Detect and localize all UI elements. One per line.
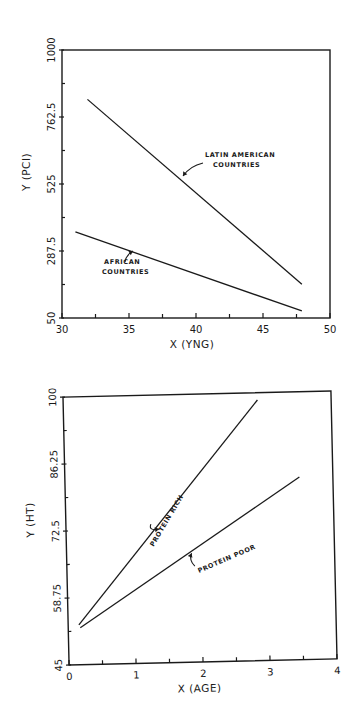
y-tick-label: 1000 — [46, 37, 57, 62]
series-annotation: COUNTRIES — [213, 161, 260, 169]
x-tick-label: 50 — [324, 324, 337, 335]
y-tick-label: 50 — [46, 312, 57, 325]
x-tick-label: 40 — [190, 324, 203, 335]
y-axis-label: Y (PCI) — [20, 153, 32, 192]
chart-height-vs-age: 012344558.7572.586.25100X (AGE)Y (HT)PRO… — [21, 381, 341, 698]
x-tick-label: 30 — [56, 324, 69, 335]
x-tick-label: 1 — [133, 669, 140, 680]
series-annotation: PROTEIN POOR — [197, 543, 257, 575]
x-tick-label: 35 — [123, 324, 136, 335]
plot-frame — [63, 391, 337, 665]
series-annotation: COUNTRIES — [102, 268, 149, 276]
x-tick-label: 4 — [334, 665, 341, 676]
y-tick-label: 287.5 — [46, 237, 57, 266]
series-annotation: LATIN AMERICAN — [205, 151, 275, 159]
x-tick-label: 0 — [66, 671, 73, 682]
y-tick-label: 86.25 — [48, 450, 60, 479]
x-tick-label: 45 — [257, 324, 270, 335]
y-tick-label: 100 — [47, 388, 58, 407]
y-tick-label: 762.5 — [46, 103, 57, 132]
x-axis-label: X (YNG) — [170, 338, 215, 350]
chart-pci-vs-yng: 303540455050287.5525762.51000X (YNG)Y (P… — [20, 37, 336, 350]
y-tick-label: 45 — [53, 659, 64, 672]
series-line-protein-poor — [77, 477, 303, 628]
series-line-latin-american-countries — [87, 99, 301, 284]
x-tick-label: 2 — [200, 668, 207, 679]
x-axis-label: X (AGE) — [178, 682, 222, 695]
y-tick-label: 72.5 — [50, 520, 62, 543]
plot-frame — [62, 50, 330, 318]
series-annotation: PROTEIN RICH — [148, 493, 185, 548]
y-tick-label: 525 — [46, 174, 57, 193]
x-tick-label: 3 — [267, 666, 274, 677]
series-annotation: AFRICAN — [104, 258, 140, 266]
chart-figure: 303540455050287.5525762.51000X (YNG)Y (P… — [0, 0, 362, 727]
y-axis-label: Y (HT) — [23, 502, 36, 539]
y-tick-label: 58.75 — [51, 584, 63, 613]
